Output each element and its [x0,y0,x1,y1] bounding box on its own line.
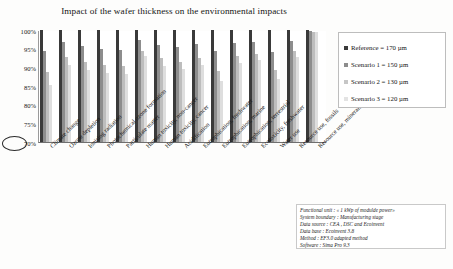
legend-swatch-icon [344,63,348,67]
footnote-line: System boundary : Manufacturing stage [300,214,442,221]
footnote-line: Functional unit : « 1 kWp of modulde pow… [300,207,442,214]
y-axis-tick-label: 85% [24,84,36,91]
legend-item[interactable]: Scenario 2 = 130 µm [344,73,441,90]
footnote-line: Data source : CEA , DSC and Ecoinvent [300,221,442,228]
legend-item-label: Scenario 2 = 130 µm [351,78,408,85]
chart-legend: Reference = 170 µmScenario 1 = 150 µmSce… [338,32,446,108]
y-axis-tick-label: 75% [24,121,36,128]
chart-figure: Impact of the wafer thickness on the env… [0,0,453,269]
legend-item-label: Reference = 170 µm [351,44,407,51]
y-axis: 100%95%90%85%80%75%70% [8,24,38,150]
legend-swatch-icon [344,97,348,101]
legend-item-label: Scenario 3 = 120 µm [351,95,408,102]
chart-title: Impact of the wafer thickness on the env… [34,6,314,16]
bar-group [40,31,59,142]
y-axis-tick-label: 90% [24,65,36,72]
legend-item[interactable]: Reference = 170 µm [344,39,441,56]
footnote-line: Method : EF3.0 adapted method [300,235,442,242]
footnote-line: Data base : Ecoinvent 3.8 [300,228,442,235]
y-axis-highlight-ellipse [2,136,27,151]
footnote-line: Software : Sima Pro 9.3 [300,242,442,249]
legend-swatch-icon [344,80,348,84]
bar [49,85,52,142]
footnote-box: Functional unit : « 1 kWp of modulde pow… [296,204,446,249]
x-axis-labels: Climate changeOzone depletionIonising ra… [38,145,326,245]
y-axis-tick-label: 95% [24,46,36,53]
legend-swatch-icon [344,46,348,50]
y-axis-tick-label: 80% [24,102,36,109]
bar-group [287,31,306,142]
legend-item[interactable]: Scenario 3 = 120 µm [344,90,441,107]
y-axis-tick-label: 100% [21,28,36,35]
legend-item[interactable]: Scenario 1 = 150 µm [344,56,441,73]
legend-item-label: Scenario 1 = 150 µm [351,61,408,68]
